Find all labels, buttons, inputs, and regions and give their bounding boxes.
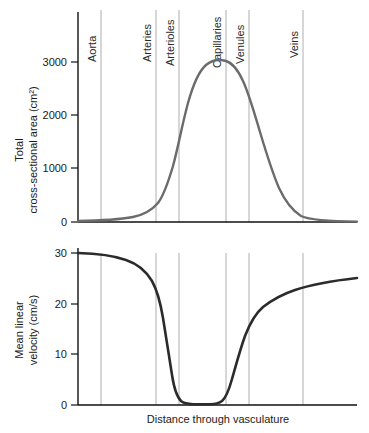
bottom-ytick-label-30: 30 <box>55 247 67 259</box>
bottom-y-axis-title-line1: Mean linear <box>13 301 25 359</box>
region-label-arterioles: Arterioles <box>164 19 176 66</box>
x-axis-title: Distance through vasculature <box>147 413 289 425</box>
figure-svg: Aorta Arteries Arterioles Capillaries Ve… <box>0 0 369 433</box>
bottom-ytick-label-0: 0 <box>61 399 67 411</box>
bottom-ytick-label-20: 20 <box>55 298 67 310</box>
top-y-axis-title-line2: cross-sectional area (cm²) <box>27 86 39 213</box>
region-label-veins: Veins <box>288 31 300 58</box>
top-ytick-label-3000: 3000 <box>43 56 67 68</box>
top-ytick-label-1000: 1000 <box>43 162 67 174</box>
bottom-ytick-label-10: 10 <box>55 348 67 360</box>
vasculature-figure: Aorta Arteries Arterioles Capillaries Ve… <box>0 0 369 433</box>
top-y-axis-title-line1: Total <box>13 138 25 161</box>
region-label-arteries: Arteries <box>141 24 153 62</box>
region-label-aorta: Aorta <box>86 35 98 62</box>
top-ytick-label-2000: 2000 <box>43 109 67 121</box>
top-ytick-label-0: 0 <box>61 216 67 228</box>
bottom-y-axis-title-line2: velocity (cm/s) <box>27 295 39 365</box>
region-label-venules: Venules <box>234 24 246 64</box>
